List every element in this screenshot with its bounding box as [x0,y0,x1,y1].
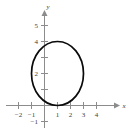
x-tick-label-1: 1 [56,111,60,119]
x-tick-label-3: 3 [82,111,86,119]
y-tick-label-4: 4 [35,38,39,46]
graph-figure: −2 −1 1 2 3 4 −1 2 4 5 x y [0,0,128,135]
y-tick-label-5: 5 [35,22,39,30]
x-tick-label-2: 2 [69,111,73,119]
x-tick-label-4: 4 [95,111,99,119]
y-axis-label: y [45,3,50,11]
y-tick-label-neg1: −1 [31,118,39,126]
x-axis-label: x [121,102,126,110]
x-axis-arrowhead [114,103,120,109]
y-axis-group [41,10,48,128]
coordinate-plane-plot: −2 −1 1 2 3 4 −1 2 4 5 x y [0,0,128,135]
x-tick-label-neg2: −2 [15,111,23,119]
y-tick-label-2: 2 [35,70,39,78]
circle-curve [32,42,84,106]
